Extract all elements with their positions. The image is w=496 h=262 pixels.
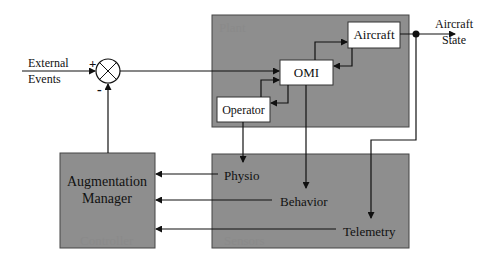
plus-sign: + <box>89 56 96 71</box>
behavior-label: Behavior <box>280 194 328 209</box>
output-label-line1: Aircraft <box>435 17 474 31</box>
aircraft-label: Aircraft <box>353 27 395 42</box>
plant-label: Plant <box>219 20 246 35</box>
block-diagram: Plant Sensors Controller Augmentation Ma… <box>0 0 496 262</box>
telemetry-label: Telemetry <box>343 224 396 239</box>
physio-label: Physio <box>224 168 259 183</box>
external-label-line2: Events <box>28 72 61 86</box>
controller-title-line1: Augmentation <box>67 174 147 189</box>
operator-label: Operator <box>222 103 265 117</box>
sensors-label: Sensors <box>224 233 264 248</box>
minus-sign: - <box>97 82 102 97</box>
summing-junction <box>96 59 120 83</box>
output-label-line2: State <box>442 33 466 47</box>
controller-title-line2: Manager <box>82 191 132 206</box>
omi-label: OMI <box>294 65 319 80</box>
controller-label: Controller <box>80 233 134 248</box>
external-label-line1: External <box>28 56 69 70</box>
